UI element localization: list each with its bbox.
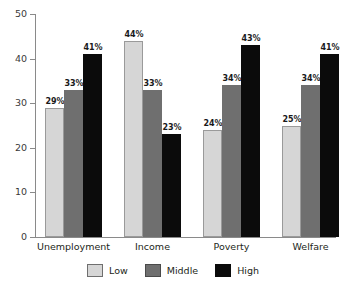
bar-unemployment-low[interactable]: 29% xyxy=(45,108,64,237)
y-tick-label-50: 50 xyxy=(0,9,27,18)
bar-fill xyxy=(162,134,181,237)
bar-fill xyxy=(282,126,301,238)
y-tick-mark-10 xyxy=(30,192,36,193)
swatch-high-icon xyxy=(215,264,231,277)
bar-fill xyxy=(124,41,143,237)
bar-welfare-low[interactable]: 25% xyxy=(282,126,301,238)
grouped-bar-chart: 50403020100 29%33%41%44%33%23%24%34%43%2… xyxy=(0,0,346,294)
y-tick-mark-30 xyxy=(30,103,36,104)
swatch-middle-icon xyxy=(145,264,161,277)
bar-fill xyxy=(320,54,339,237)
bar-value-label-income-high: 23% xyxy=(159,124,185,132)
legend-item-middle[interactable]: Middle xyxy=(145,264,198,277)
y-tick-label-40: 40 xyxy=(0,54,27,63)
bar-income-high[interactable]: 23% xyxy=(162,134,181,237)
bar-fill xyxy=(301,85,320,237)
bar-fill xyxy=(203,130,222,237)
bar-fill xyxy=(45,108,64,237)
bar-welfare-middle[interactable]: 34% xyxy=(301,85,320,237)
y-tick-mark-0 xyxy=(30,237,36,238)
x-axis-line xyxy=(35,237,336,238)
y-tick-label-10: 10 xyxy=(0,187,27,196)
bar-value-label-income-middle: 33% xyxy=(140,80,166,88)
x-tick-label-income: Income xyxy=(108,241,198,252)
y-tick-mark-50 xyxy=(30,14,36,15)
bar-poverty-high[interactable]: 43% xyxy=(241,45,260,237)
bar-fill xyxy=(83,54,102,237)
legend-label-low: Low xyxy=(109,266,128,276)
bar-value-label-poverty-high: 43% xyxy=(238,35,264,43)
chart-legend: LowMiddleHigh xyxy=(0,264,346,277)
bar-poverty-low[interactable]: 24% xyxy=(203,130,222,237)
y-tick-mark-20 xyxy=(30,148,36,149)
bar-fill xyxy=(222,85,241,237)
x-tick-label-poverty: Poverty xyxy=(187,241,277,252)
bar-poverty-middle[interactable]: 34% xyxy=(222,85,241,237)
x-tick-label-welfare: Welfare xyxy=(266,241,346,252)
bar-value-label-income-low: 44% xyxy=(121,31,147,39)
bar-fill xyxy=(64,90,83,237)
bar-value-label-unemployment-high: 41% xyxy=(80,44,106,52)
bar-group-poverty: 24%34%43% xyxy=(203,14,260,237)
legend-item-low[interactable]: Low xyxy=(87,264,128,277)
bar-group-income: 44%33%23% xyxy=(124,14,181,237)
y-tick-label-30: 30 xyxy=(0,98,27,107)
y-tick-mark-40 xyxy=(30,59,36,60)
swatch-low-icon xyxy=(87,264,103,277)
legend-label-middle: Middle xyxy=(167,266,198,276)
bar-income-low[interactable]: 44% xyxy=(124,41,143,237)
y-axis-line xyxy=(35,14,36,238)
bar-welfare-high[interactable]: 41% xyxy=(320,54,339,237)
bar-fill xyxy=(143,90,162,237)
bar-income-middle[interactable]: 33% xyxy=(143,90,162,237)
bar-unemployment-middle[interactable]: 33% xyxy=(64,90,83,237)
bar-group-welfare: 25%34%41% xyxy=(282,14,339,237)
y-tick-label-0: 0 xyxy=(0,232,27,241)
bar-group-unemployment: 29%33%41% xyxy=(45,14,102,237)
bar-value-label-welfare-high: 41% xyxy=(317,44,343,52)
bar-unemployment-high[interactable]: 41% xyxy=(83,54,102,237)
x-tick-label-unemployment: Unemployment xyxy=(29,241,119,252)
legend-item-high[interactable]: High xyxy=(215,264,259,277)
bar-fill xyxy=(241,45,260,237)
y-tick-label-20: 20 xyxy=(0,143,27,152)
legend-label-high: High xyxy=(237,266,259,276)
